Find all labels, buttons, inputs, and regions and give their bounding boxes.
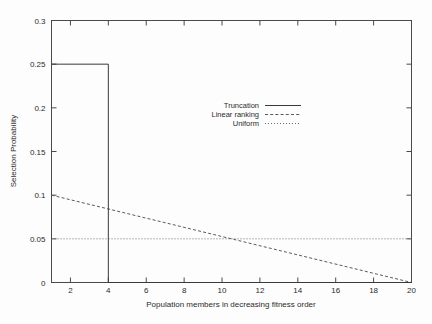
chart-figure: 2468101214161820 00.050.10.150.20.250.3 …: [0, 0, 432, 324]
x-tick-label: 18: [369, 286, 378, 295]
x-tick-label: 12: [255, 286, 264, 295]
x-tick-label: 2: [68, 286, 73, 295]
x-tick-label: 14: [293, 286, 302, 295]
y-axis-title: Selection Probability: [9, 115, 18, 187]
y-tick-label: 0.1: [34, 191, 46, 200]
x-tick-label: 16: [331, 286, 340, 295]
legend-label-linear-ranking: Linear ranking: [211, 110, 259, 119]
x-tick-label: 10: [218, 286, 227, 295]
x-tick-label: 8: [182, 286, 187, 295]
chart-background: [0, 0, 432, 324]
y-tick-label: 0.3: [34, 17, 46, 26]
selection-probability-chart: 2468101214161820 00.050.10.150.20.250.3 …: [0, 0, 432, 324]
y-tick-label: 0.05: [30, 235, 46, 244]
x-tick-label: 6: [144, 286, 149, 295]
x-tick-label: 20: [407, 286, 416, 295]
y-tick-label: 0.25: [30, 60, 46, 69]
x-axis-title: Population members in decreasing fitness…: [146, 300, 316, 309]
x-tick-label: 4: [106, 286, 111, 295]
legend-label-uniform: Uniform: [233, 119, 259, 128]
legend-label-truncation: Truncation: [224, 101, 259, 110]
y-tick-label: 0: [41, 279, 46, 288]
y-tick-label: 0.15: [30, 148, 46, 157]
y-tick-label: 0.2: [34, 104, 46, 113]
